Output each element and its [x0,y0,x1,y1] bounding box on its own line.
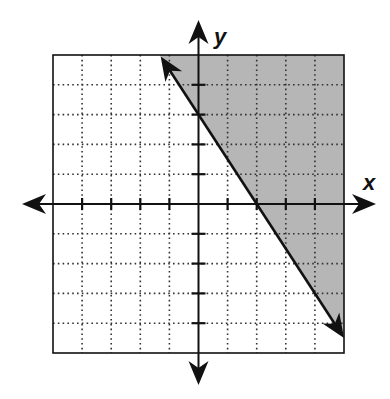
y-axis-label: y [213,24,228,49]
x-axis-label: x [362,170,376,195]
inequality-graph: x y [0,0,390,399]
